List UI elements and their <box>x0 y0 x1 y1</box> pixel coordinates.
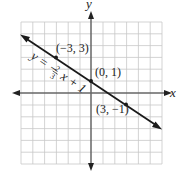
svg-text:x + 1: x + 1 <box>57 68 89 96</box>
point-neg3-3 <box>54 56 58 60</box>
y-axis-arrow-down-icon <box>88 163 94 171</box>
coordinate-plane: x y (−3, 3) (0, 1) (3, −1) y = − 2 3 x +… <box>0 0 192 172</box>
point-0-1 <box>89 79 93 83</box>
line-arrow-start-icon <box>20 35 30 43</box>
x-axis-label: x <box>169 85 176 100</box>
point-label-3-neg1: (3, −1) <box>96 102 129 116</box>
x-axis-arrow-left-icon <box>12 90 20 96</box>
y-axis-label: y <box>84 0 92 11</box>
y-axis-arrow-up-icon <box>88 11 94 19</box>
point-label-neg3-3: (−3, 3) <box>56 41 89 55</box>
axes <box>12 11 172 171</box>
point-label-0-1: (0, 1) <box>95 65 121 79</box>
